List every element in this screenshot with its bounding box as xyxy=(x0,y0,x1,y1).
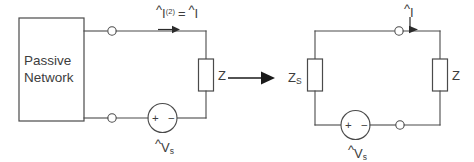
left-current-hat-2: ^ xyxy=(189,2,195,17)
right-bottom-terminal-node xyxy=(396,121,404,129)
circuit-diagram-canvas: Passive Network ^I(2)=^I Z + − ^Vs ZS Z … xyxy=(0,0,474,162)
left-top-terminal-node xyxy=(108,27,116,35)
right-current-hat: ^ xyxy=(404,1,410,16)
left-source-label-group: ^Vs xyxy=(155,138,174,156)
left-current-superscript: (2) xyxy=(166,7,175,16)
source-impedance-symbol: Z xyxy=(288,70,296,85)
left-current-equals: = xyxy=(178,6,186,21)
left-load-impedance-box xyxy=(199,59,214,91)
right-top-terminal-node xyxy=(395,27,403,35)
left-current-label-group: ^I(2)=^I xyxy=(156,4,198,22)
right-source-symbol: V xyxy=(354,146,363,161)
source-impedance-label-group: ZS xyxy=(288,68,302,86)
source-impedance-box xyxy=(308,59,323,91)
transition-arrow-head xyxy=(261,72,275,85)
right-current-symbol: I xyxy=(410,5,414,20)
left-load-impedance-label: Z xyxy=(218,68,226,83)
left-current-symbol-2: I xyxy=(195,6,199,21)
passive-network-label: Passive Network xyxy=(24,52,82,86)
source-impedance-subscript: S xyxy=(296,76,302,86)
right-source-hat: ^ xyxy=(348,142,354,157)
right-source-label-group: ^Vs xyxy=(348,144,367,162)
left-source-minus-sign: − xyxy=(168,113,175,125)
left-bottom-terminal-node xyxy=(108,114,116,122)
left-source-subscript: s xyxy=(170,146,174,156)
right-source-plus-sign: + xyxy=(345,120,352,132)
right-current-label-group: ^I xyxy=(404,3,414,21)
transition-arrow-group xyxy=(228,72,275,85)
left-source-hat: ^ xyxy=(155,136,161,151)
left-current-hat-1: ^ xyxy=(156,2,162,17)
left-source-symbol: V xyxy=(161,140,170,155)
right-source-minus-sign: − xyxy=(361,120,368,132)
right-load-impedance-box xyxy=(433,59,448,91)
left-source-plus-sign: + xyxy=(152,113,159,125)
right-circuit-group xyxy=(308,17,448,140)
right-load-impedance-label: Z xyxy=(452,68,460,83)
right-source-subscript: s xyxy=(363,152,367,162)
left-current-arrow-head xyxy=(172,26,180,33)
